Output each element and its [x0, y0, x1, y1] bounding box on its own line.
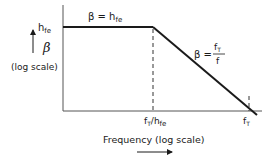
svg-text:f: f — [216, 56, 220, 66]
y-tick-hfe: hfe — [38, 22, 51, 35]
x-tick-fT-over-hfe: fT/hfe — [144, 116, 166, 128]
svg-text:fT: fT — [214, 42, 221, 53]
x-tick-fT: fT — [243, 116, 250, 127]
svg-text:β =: β = — [194, 49, 212, 60]
rolloff-label: β = fT f — [194, 42, 225, 66]
flat-region-label: β = hfe — [88, 11, 122, 24]
y-axis-scale-label: (log scale) — [11, 62, 58, 72]
rolloff-line — [153, 27, 257, 115]
x-axis-label: Frequency (log scale) — [103, 134, 205, 145]
beta-frequency-diagram: hfe β (log scale) β = hfe β = fT f fT/hf… — [0, 0, 271, 158]
y-axis-symbol: β — [42, 40, 51, 55]
